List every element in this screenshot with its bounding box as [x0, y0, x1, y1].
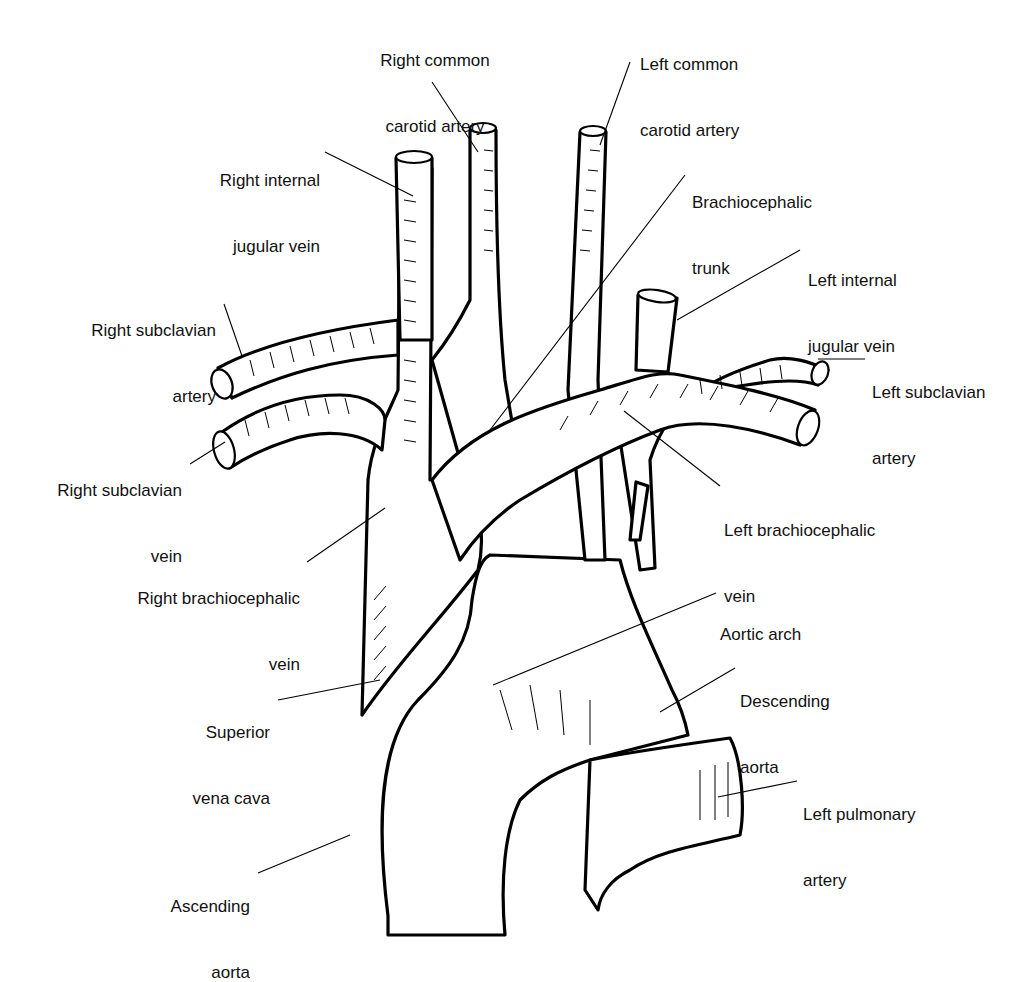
label-right-subclavian-artery: Right subclavian artery: [40, 276, 216, 452]
label-line: trunk: [692, 258, 812, 280]
label-right-common-carotid-artery: Right common carotid artery: [345, 6, 525, 182]
right-subclavian-vein-shape: [222, 395, 385, 468]
label-line: carotid artery: [345, 116, 525, 138]
label-line: Right subclavian: [4, 480, 182, 502]
label-brachiocephalic-trunk: Brachiocephalic trunk: [692, 148, 812, 324]
label-line: Aortic arch: [720, 624, 801, 646]
label-line: Right common: [345, 50, 525, 72]
label-line: Superior: [150, 722, 270, 744]
label-line: Left common: [640, 54, 739, 76]
label-line: artery: [803, 870, 915, 892]
label-line: Left pulmonary: [803, 804, 915, 826]
left-common-carotid-shape: [568, 132, 606, 560]
right-internal-jugular-vein-shape: [396, 158, 432, 340]
label-line: artery: [872, 448, 985, 470]
label-line: Right internal: [170, 170, 320, 192]
label-line: Ascending: [140, 896, 250, 918]
label-line: Left subclavian: [872, 382, 985, 404]
label-line: aorta: [140, 962, 250, 982]
label-line: Left internal: [808, 270, 897, 292]
label-superior-vena-cava: Superior vena cava: [150, 678, 270, 854]
left-pulmonary-artery-shape: [585, 738, 742, 910]
label-line: Right brachiocephalic: [70, 588, 300, 610]
label-line: vein: [70, 654, 300, 676]
label-line: Brachiocephalic: [692, 192, 812, 214]
label-line: jugular vein: [170, 236, 320, 258]
left-internal-jugular-vein-shape: [636, 295, 677, 372]
label-line: carotid artery: [640, 120, 739, 142]
label-line: Right subclavian: [40, 320, 216, 342]
label-ascending-aorta: Ascending aorta: [140, 852, 250, 982]
label-line: vena cava: [150, 788, 270, 810]
label-left-subclavian-artery: Left subclavian artery: [872, 338, 985, 514]
label-line: artery: [40, 386, 216, 408]
label-left-pulmonary-artery: Left pulmonary artery: [803, 760, 915, 936]
label-line: Descending: [740, 691, 830, 713]
label-line: Left brachiocephalic: [724, 520, 875, 542]
